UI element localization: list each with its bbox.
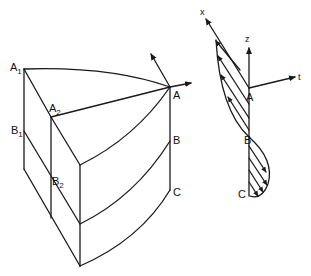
lower-hatch-arrow [249, 146, 266, 172]
label-a2: A2 [49, 102, 61, 117]
edge-a2-corner [51, 117, 80, 165]
edge-a2-a [51, 87, 170, 117]
label-t-axis: t [298, 72, 301, 82]
t-axis-arrow [249, 77, 295, 88]
label-x-axis: x [200, 7, 205, 17]
tangent-arrow [170, 83, 191, 87]
label-c: C [173, 186, 181, 198]
top-arc-edge [24, 69, 170, 87]
label-b1: B1 [11, 124, 23, 139]
stress-profile: x z t A B C [200, 7, 301, 200]
profile-label-c: C [238, 188, 246, 200]
profile-label-a: A [246, 91, 254, 103]
x-axis-arrow [206, 19, 249, 88]
label-a1: A1 [10, 61, 22, 76]
lower-hatch-arrow [249, 170, 263, 192]
profile-label-b: B [244, 134, 251, 146]
edge-a1-a2 [24, 69, 51, 117]
label-z-axis: z [245, 34, 250, 44]
lower-hatch-arrow [249, 158, 267, 185]
arc-bottom-c [80, 190, 170, 266]
wedge-block: A1 A2 B1 B2 A B C [10, 54, 191, 266]
diagram-canvas: A1 A2 B1 B2 A B C x z t A B [0, 0, 311, 276]
upper-hatch-arrow [216, 41, 240, 70]
label-b: B [173, 134, 180, 146]
lower-hatch-arrow [249, 182, 258, 196]
label-a: A [173, 89, 181, 101]
arc-mid-b [80, 141, 170, 224]
